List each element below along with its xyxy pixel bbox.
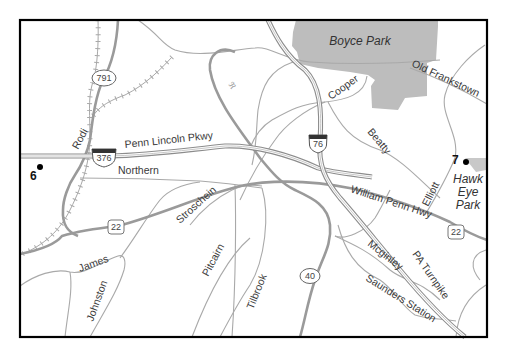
shield-sr-40: 40 [300, 269, 320, 284]
map-canvas: 791 376 76 22 22 40 Boyce Park Hawk Eye [0, 0, 505, 352]
shield-40-label: 40 [305, 271, 315, 281]
label-hawk-eye-park-line3: Park [456, 198, 482, 212]
shield-us-22-east: 22 [448, 225, 464, 239]
shield-791-label: 791 [96, 73, 111, 83]
shield-376-label: 376 [96, 153, 111, 163]
shield-sr-791: 791 [92, 70, 116, 86]
shield-22-east-label: 22 [451, 227, 461, 237]
shield-76-label: 76 [313, 139, 323, 149]
marker-6-dot [37, 164, 43, 170]
label-hawk-eye-park-line1: Hawk [453, 172, 484, 186]
label-boyce-park: Boyce Park [329, 34, 391, 48]
marker-6-label: 6 [30, 169, 37, 183]
marker-7-dot [463, 159, 469, 165]
shield-22-west-label: 22 [111, 222, 121, 232]
label-hawk-eye-park-line2: Eye [458, 185, 479, 199]
label-northern: Northern [118, 164, 159, 176]
marker-7-label: 7 [452, 153, 459, 167]
shield-us-22-west: 22 [108, 220, 124, 234]
